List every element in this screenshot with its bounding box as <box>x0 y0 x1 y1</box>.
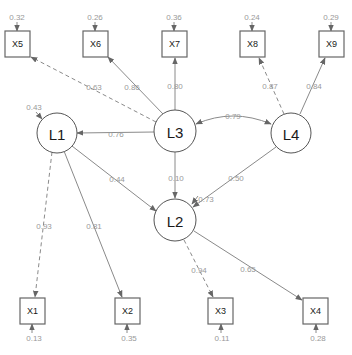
path-diagram: X5 X6 X7 X8 X9 X1 X2 X3 X4 L1 L3 <box>0 0 352 355</box>
coef-l3-x7: 0.80 <box>167 82 183 91</box>
node-l1: L1 <box>37 113 77 153</box>
svg-text:L4: L4 <box>283 126 300 143</box>
node-x9: X9 <box>319 31 344 57</box>
residual-x3: 0.11 <box>215 334 231 343</box>
coef-l3-l4: 0.79 <box>225 112 241 121</box>
svg-text:X2: X2 <box>122 306 133 316</box>
coef-l3-x6: 0.86 <box>124 83 140 92</box>
coef-l2-x4: 0.65 <box>240 265 256 274</box>
residual-arrow-l2 <box>192 196 198 204</box>
coef-l1-x1: 0.93 <box>36 222 52 231</box>
residual-l2: 0.73 <box>198 195 214 204</box>
node-x5: X5 <box>5 31 30 57</box>
coef-l4-x9: 0.84 <box>306 82 322 91</box>
coef-l3-x5: 0.63 <box>86 83 102 92</box>
coef-l3-l2: 0.10 <box>168 174 184 183</box>
coef-l3-l1: 0.76 <box>108 130 124 139</box>
node-x8: X8 <box>240 31 265 57</box>
residual-x1: 0.13 <box>26 334 42 343</box>
coef-l1-l2: 0.44 <box>109 175 125 184</box>
residual-x4: 0.28 <box>310 334 326 343</box>
svg-text:X3: X3 <box>215 306 226 316</box>
node-l4: L4 <box>271 113 311 153</box>
residual-x5: 0.32 <box>9 13 25 22</box>
svg-text:X1: X1 <box>27 306 38 316</box>
svg-text:X4: X4 <box>310 306 321 316</box>
coef-l4-l2: 0.50 <box>228 174 244 183</box>
svg-text:L3: L3 <box>167 124 184 141</box>
residual-x7: 0.36 <box>166 13 182 22</box>
svg-text:L2: L2 <box>167 213 184 230</box>
svg-text:L1: L1 <box>49 126 66 143</box>
coef-l1-x2: 0.81 <box>86 222 102 231</box>
node-x4: X4 <box>303 298 328 324</box>
svg-text:X7: X7 <box>169 39 180 49</box>
coef-l2-x3: 0.94 <box>191 266 207 275</box>
node-x3: X3 <box>208 298 233 324</box>
svg-text:X9: X9 <box>326 39 337 49</box>
node-x7: X7 <box>162 31 187 57</box>
svg-text:X6: X6 <box>90 39 101 49</box>
residual-x9: 0.29 <box>323 13 339 22</box>
residual-l1: 0.43 <box>26 103 42 112</box>
svg-text:X5: X5 <box>12 39 23 49</box>
node-x6: X6 <box>83 31 108 57</box>
node-x1: X1 <box>20 298 45 324</box>
coef-l4-x8: 0.87 <box>262 82 278 91</box>
residual-x2: 0.35 <box>121 334 137 343</box>
node-x2: X2 <box>115 298 140 324</box>
node-l3: L3 <box>154 110 196 152</box>
node-l2: L2 <box>154 199 196 241</box>
residual-arrow-l1 <box>36 112 42 119</box>
svg-text:X8: X8 <box>247 39 258 49</box>
residual-x6: 0.26 <box>87 13 103 22</box>
residual-x8: 0.24 <box>244 13 260 22</box>
